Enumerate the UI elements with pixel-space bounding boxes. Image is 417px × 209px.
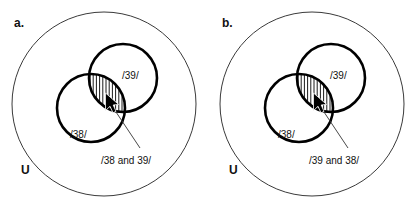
universe-label-b: U [229, 163, 238, 177]
panel-letter-a: a. [14, 16, 24, 30]
universe-circle-a [12, 12, 196, 196]
panel-a: a. U /39/ /38/ /38 and 39/ [0, 0, 208, 209]
intersection-label-a: /38 and 39/ [101, 155, 151, 166]
set-label-39-b: /39/ [330, 70, 347, 81]
intersection-label-b: /39 and 38/ [309, 155, 359, 166]
set-label-38-a: /38/ [70, 129, 87, 140]
universe-label-a: U [21, 163, 30, 177]
panel-b: b. U /39/ /38/ /39 and 38/ [208, 0, 416, 209]
set-label-39-a: /39/ [122, 70, 139, 81]
venn-diagram-figure: a. U /39/ /38/ /38 and 39/ [0, 0, 417, 209]
universe-circle-b [220, 12, 404, 196]
set-label-38-b: /38/ [278, 129, 295, 140]
panel-letter-b: b. [222, 16, 233, 30]
